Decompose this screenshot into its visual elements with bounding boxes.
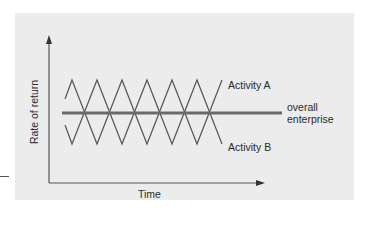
x-axis [49, 180, 265, 186]
overall-label-line1: overall [287, 101, 318, 113]
activity-a-label: Activity A [228, 79, 271, 91]
activity-b-label: Activity B [228, 141, 271, 153]
x-axis-label: Time [138, 188, 161, 200]
arrow-right-icon [256, 180, 265, 186]
y-axis-label: Rate of return [28, 80, 40, 144]
arrow-up-icon [46, 35, 52, 44]
overall-label-line2: enterprise [287, 113, 334, 125]
y-axis [46, 35, 52, 183]
